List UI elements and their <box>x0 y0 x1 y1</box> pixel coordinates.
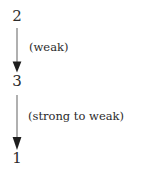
node-label-1: 1 <box>10 151 24 166</box>
edge-label-strong-to-weak: (strong to weak) <box>28 110 124 123</box>
arrow-3-to-1 <box>13 95 22 150</box>
edge-label-weak: (weak) <box>29 41 68 54</box>
flow-diagram: 2 3 1 (weak) (strong to weak) <box>0 0 141 170</box>
node-label-3: 3 <box>10 74 24 89</box>
node-label-2: 2 <box>10 9 24 24</box>
arrow-2-to-3 <box>13 28 22 73</box>
arrowhead-2-to-3 <box>13 62 22 73</box>
